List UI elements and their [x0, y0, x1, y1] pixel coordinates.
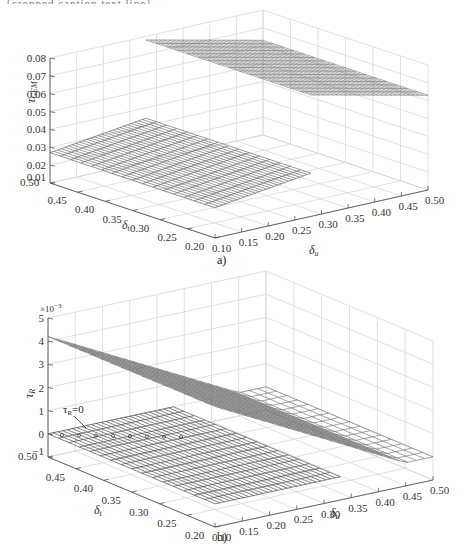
y-tick-label: 0.40 [74, 482, 94, 494]
x-tick-label: 0.25 [294, 513, 314, 525]
z-multiplier-label: ×10−3 [40, 302, 62, 314]
x-tick-label: 0.45 [403, 490, 423, 502]
z-tick-label: 1 [39, 405, 45, 417]
y-tick-label: 0.25 [157, 517, 177, 529]
chart-b-surface-plot: 0.100.150.200.250.300.350.400.450.500.50… [0, 0, 465, 559]
y-tick-label: 0.20 [185, 529, 205, 541]
x-tick-label: 0.50 [430, 484, 450, 496]
y-tick-label: 0.45 [46, 471, 66, 483]
subfigure-caption: b) [217, 530, 227, 544]
x-tick-label: 0.40 [376, 496, 396, 508]
y-tick-label: 0.35 [102, 494, 122, 506]
surface-mesh [48, 337, 433, 504]
z-tick-label: 2 [39, 382, 45, 394]
x-tick-label: 0.20 [267, 519, 287, 531]
z-axis-label: τR [22, 389, 37, 398]
annotation-arrow [74, 416, 86, 428]
tau-r-zero-annotation: τR=0 [63, 403, 84, 417]
x-tick-label: 0.35 [348, 502, 368, 514]
z-tick-label: 0 [39, 428, 45, 440]
z-tick-label: 3 [39, 358, 45, 370]
x-tick-label: 0.15 [239, 525, 259, 537]
axes-box [48, 271, 433, 527]
z-tick-label: 4 [39, 335, 45, 347]
y-tick-label: 0.30 [129, 506, 149, 518]
z-tick-label: −1 [32, 445, 44, 457]
